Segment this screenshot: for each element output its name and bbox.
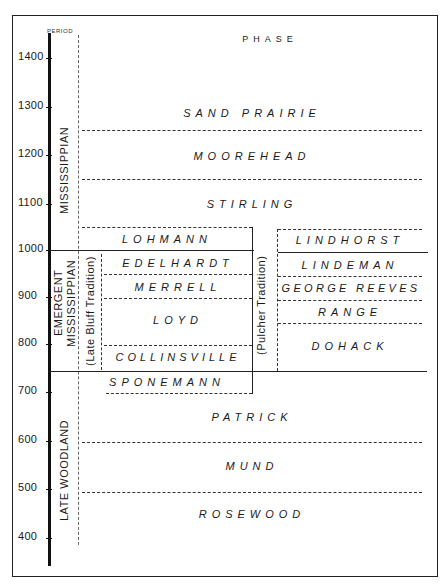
phase-patrick: PATRICK [82,411,422,423]
phase-sponemann: SPONEMANN [82,376,252,388]
line-600 [82,442,422,443]
tick-label-1300: 1300 [18,99,48,111]
phase-merrell: MERRELL [104,281,252,293]
phase-lohmann: LOHMANN [82,233,252,245]
tick-label-800: 800 [18,336,48,348]
period-emergent-mississippian: EMERGENTMISSISSIPPIAN [52,258,78,348]
phase-edelhardt: EDELHARDT [104,257,252,269]
pulcher-left-border [252,227,253,394]
line-1000-right [278,252,428,253]
line-700-sponemann [106,393,252,394]
line-900-left [104,298,252,299]
phase-loyd: LOYD [104,314,252,326]
phase-dohack: DOHACK [278,340,422,352]
phase-collinsville: COLLINSVILLE [104,351,252,363]
tradition-late-bluff: (Late Bluff Tradition) [84,252,96,370]
tick-label-700: 700 [18,384,48,396]
line-1050-right [278,229,422,230]
phase-lindhorst: LINDHORST [278,234,422,246]
tick-label-1400: 1400 [18,50,48,62]
tick-label-1100: 1100 [18,196,48,208]
line-1050-left [82,227,252,228]
period-mississippian: MISSISSIPPIAN [58,100,70,240]
tick-label-400: 400 [18,530,48,542]
tick-label-1200: 1200 [18,147,48,159]
phase-mund: MUND [82,460,422,472]
tick-label-600: 600 [18,433,48,445]
phase-moorehead: MOOREHEAD [82,150,422,162]
boundary-750 [49,371,427,372]
line-500 [82,492,422,493]
line-1150 [82,179,422,180]
phase-rosewood: ROSEWOOD [82,508,422,520]
late-bluff-divider [101,254,102,370]
boundary-1000 [49,250,254,251]
line-1250 [82,130,422,131]
tick-label-1000: 1000 [18,242,48,254]
phase-header: PHASE [200,34,340,44]
line-850-right [278,323,422,324]
period-late-woodland: LATE WOODLAND [58,410,70,530]
phase-stirling: STIRLING [82,198,422,210]
phase-george-reeves: GEORGE REEVES [276,282,426,294]
line-950-left [104,274,252,275]
phase-sand-prairie: SAND PRAIRIE [82,107,422,119]
tick-label-500: 500 [18,481,48,493]
phase-lindeman: LINDEMAN [278,259,422,271]
tick-label-900: 900 [18,289,48,301]
tradition-pulcher: (Pulcher Tradition) [255,240,267,370]
line-800-left [104,345,252,346]
line-900-right [278,300,422,301]
phase-range: RANGE [278,306,422,318]
time-axis [48,33,51,566]
line-950-right [278,276,422,277]
period-divider [78,35,80,545]
